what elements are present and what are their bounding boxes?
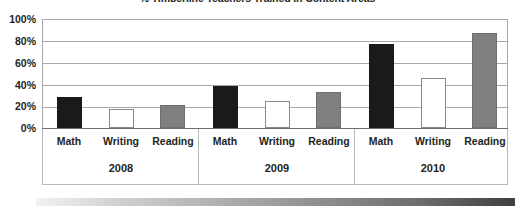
y-axis-tick-20: 20% [0,101,36,111]
y-axis-tick-100: 100% [0,14,36,24]
bar-2009-math [213,86,238,129]
bar-2008-writing [109,109,134,128]
y-axis-tick-40: 40% [0,80,36,90]
group-label-2008: 2008 [43,162,199,174]
bar-2010-writing [421,78,446,128]
category-label-2010-writing: Writing [407,135,459,147]
category-label-2008-writing: Writing [95,135,147,147]
gridline-80 [43,41,507,42]
decorative-bottom-strip [36,198,515,206]
bar-2008-math [57,97,82,128]
bar-2010-math [369,44,394,128]
chart-title: % Timberline Teachers Trained in Content… [0,0,515,4]
bar-2009-writing [265,101,290,128]
group-label-2010: 2010 [355,162,511,174]
bar-chart: % Timberline Teachers Trained in Content… [0,0,515,206]
category-label-2010-math: Math [355,135,407,147]
bar-2009-reading [316,92,341,128]
category-label-2009-writing: Writing [251,135,303,147]
category-label-2008-reading: Reading [147,135,199,147]
bar-2008-reading [160,105,185,128]
group-label-2009: 2009 [199,162,355,174]
plot-area [42,19,508,128]
category-label-2009-reading: Reading [303,135,355,147]
category-label-2009-math: Math [199,135,251,147]
category-axis: Math Writing Reading Math Writing Readin… [42,129,508,185]
y-axis-tick-60: 60% [0,58,36,68]
category-label-2008-math: Math [43,135,95,147]
y-axis-tick-80: 80% [0,36,36,46]
y-axis-tick-0: 0% [0,123,36,133]
category-label-2010-reading: Reading [459,135,511,147]
gridline-60 [43,63,507,64]
bar-2010-reading [472,33,497,128]
